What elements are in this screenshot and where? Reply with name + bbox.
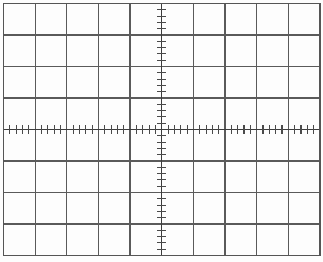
oscilloscope-display[interactable] bbox=[0, 0, 323, 262]
graticule-canvas[interactable] bbox=[0, 0, 323, 262]
